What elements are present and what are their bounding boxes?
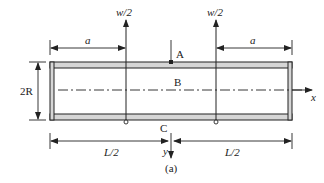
left-a-label: a [85,34,91,46]
left-load-label: w/2 [116,6,132,18]
y-axis-label: y [162,145,168,157]
figure-caption: (a) [165,162,178,175]
left-L-half-label: L/2 [103,146,119,158]
left-end-cap [50,62,54,120]
right-support-point [214,120,218,124]
right-end-cap [288,62,292,120]
point-B-label: B [174,76,181,88]
right-load-label: w/2 [207,6,223,18]
bottom-wall [50,114,292,120]
dimension-right-a: a [217,34,292,55]
dimension-2R: 2R [20,62,46,120]
point-C-label: C [160,122,167,134]
point-A: A [169,40,184,64]
beam-diagram: x w/2 w/2 a a 2R A B C [0,0,324,183]
right-L-half-label: L/2 [224,146,240,158]
tube-beam [50,62,292,120]
x-axis-label: x [310,91,316,103]
dimension-left-a: a [50,34,125,55]
right-a-label: a [250,34,256,46]
point-A-label: A [176,48,184,60]
2R-label: 2R [20,85,34,97]
left-support-point [124,120,128,124]
y-axis: y [162,133,171,158]
